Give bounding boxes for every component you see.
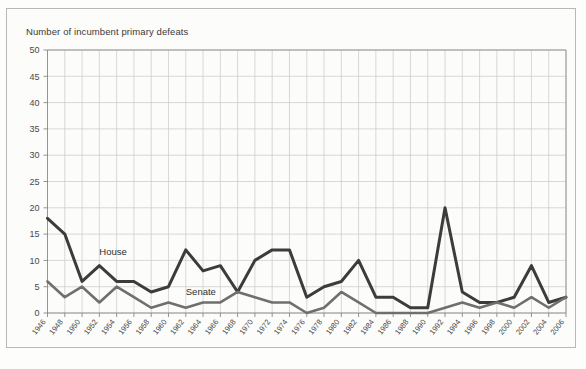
- line-chart: 05101520253035404550 1946194819501952195…: [0, 0, 586, 369]
- x-tick-label: 1970: [237, 318, 255, 337]
- x-tick-label: 1962: [168, 318, 186, 337]
- screenshot-canvas: Number of incumbent primary defeats 0510…: [0, 0, 586, 369]
- x-tick-label: 2002: [514, 318, 532, 337]
- y-tick-label: 40: [29, 98, 39, 108]
- x-tick-label: 1948: [47, 318, 65, 337]
- x-tick-label: 1950: [65, 318, 83, 337]
- x-tick-label: 1966: [203, 318, 221, 337]
- x-tick-label: 1994: [445, 318, 463, 337]
- y-tick-label: 15: [29, 229, 39, 239]
- x-tick-label: 2006: [549, 318, 567, 337]
- x-tick-label: 1998: [479, 318, 497, 337]
- x-tick-label: 1996: [462, 318, 480, 337]
- x-tick-label: 1990: [410, 318, 428, 337]
- x-tick-label: 1978: [307, 318, 325, 337]
- x-tick-label: 2004: [531, 318, 549, 337]
- gridlines: [48, 50, 567, 313]
- x-tick-label: 1946: [30, 318, 48, 337]
- y-tick-label: 10: [29, 256, 39, 266]
- x-tick-label: 1980: [324, 318, 342, 337]
- x-tick-label: 1964: [186, 318, 204, 337]
- y-tick-label: 30: [29, 150, 39, 160]
- x-tick-label: 1956: [116, 318, 134, 337]
- x-axis-tick-labels: 1946194819501952195419561958196019621964…: [30, 318, 566, 337]
- y-tick-label: 35: [29, 124, 39, 134]
- y-tick-label: 45: [29, 72, 39, 82]
- x-tick-label: 1954: [99, 318, 117, 337]
- series-label-house: House: [99, 246, 126, 257]
- y-axis-tick-labels: 05101520253035404550: [29, 45, 39, 318]
- x-tick-label: 1974: [272, 318, 290, 337]
- x-tick-label: 1988: [393, 318, 411, 337]
- y-tick-label: 5: [34, 282, 39, 292]
- y-tick-label: 0: [34, 308, 39, 318]
- x-tick-label: 1984: [358, 318, 376, 337]
- x-tick-label: 1986: [376, 318, 394, 337]
- x-tick-label: 1982: [341, 318, 359, 337]
- y-tick-label: 25: [29, 177, 39, 187]
- x-tick-label: 1968: [220, 318, 238, 337]
- x-tick-label: 1992: [428, 318, 446, 337]
- x-tick-label: 1960: [151, 318, 169, 337]
- x-tick-label: 1972: [255, 318, 273, 337]
- y-tick-label: 50: [29, 45, 39, 55]
- x-tick-label: 1952: [82, 318, 100, 337]
- series-label-senate: Senate: [186, 286, 216, 297]
- x-tick-label: 2000: [497, 318, 515, 337]
- y-tick-label: 20: [29, 203, 39, 213]
- x-tick-label: 1976: [289, 318, 307, 337]
- x-tick-label: 1958: [134, 318, 152, 337]
